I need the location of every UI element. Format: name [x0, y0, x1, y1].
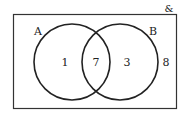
region-intersection-value: 7	[93, 56, 100, 69]
set-b-label: B	[149, 25, 157, 38]
venn-diagram: & A B 1 7 3 8	[0, 0, 186, 117]
region-a-only-value: 1	[62, 56, 69, 69]
set-a-label: A	[33, 25, 43, 38]
universal-set-symbol: &	[165, 3, 174, 14]
region-outside-value: 8	[163, 56, 170, 69]
region-b-only-value: 3	[124, 56, 131, 69]
